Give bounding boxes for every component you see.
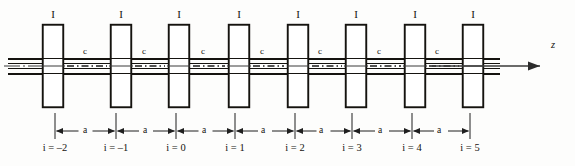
cell-index-label: i = 0: [166, 143, 185, 154]
dimension-arrowhead-left: [413, 128, 420, 134]
z-axis-label: z: [551, 40, 555, 51]
dimension-arrowhead-left: [236, 128, 243, 134]
cell-top-label-I: I: [296, 9, 300, 20]
gap-label-c: c: [435, 47, 439, 56]
periodic-cell-structure-figure: IIIIIIII ccccccc aaaaaaa i = –2i = –1i =…: [0, 0, 575, 166]
cell-top-label-I: I: [177, 9, 181, 20]
dimension-arrowhead-right: [168, 128, 175, 134]
gap-label-c: c: [83, 47, 87, 56]
dimension-arrowhead-right: [227, 128, 234, 134]
cell-top-label-I: I: [471, 9, 475, 20]
gap-label-c: c: [318, 47, 322, 56]
cell-index-label: i = 2: [285, 143, 304, 154]
cell-index-label: i = 3: [342, 143, 361, 154]
dimension-arrowhead-right: [108, 128, 115, 134]
z-axis-arrowhead: [528, 62, 540, 71]
dimension-arrowhead-left: [296, 128, 303, 134]
dimension-arrowhead-left: [353, 128, 360, 134]
cell-top-label-I: I: [354, 9, 358, 20]
dimension-arrowhead-left: [117, 128, 124, 134]
period-label-a: a: [143, 126, 147, 136]
cell-index-label: i = 5: [460, 143, 479, 154]
period-label-a: a: [83, 126, 87, 136]
dimension-arrowhead-right: [287, 128, 294, 134]
dimension-arrowhead-right: [462, 128, 469, 134]
period-label-a: a: [437, 126, 441, 136]
gap-label-c: c: [377, 47, 381, 56]
period-label-a: a: [378, 126, 382, 136]
period-label-a: a: [261, 126, 265, 136]
cell-index-label: i = 4: [402, 143, 421, 154]
dimension-arrowhead-left: [177, 128, 184, 134]
dimension-arrowhead-right: [404, 128, 411, 134]
gap-label-c: c: [142, 47, 146, 56]
cell-index-label: i = –2: [43, 143, 68, 154]
cell-index-label: i = 1: [225, 143, 244, 154]
dimension-arrowhead-right: [344, 128, 351, 134]
dimension-arrowhead-left: [56, 128, 63, 134]
cell-index-label: i = –1: [104, 143, 129, 154]
cell-top-label-I: I: [237, 9, 241, 20]
period-label-a: a: [319, 126, 323, 136]
cell-top-label-I: I: [413, 9, 417, 20]
gap-label-c: c: [201, 47, 205, 56]
period-label-a: a: [202, 126, 206, 136]
cell-top-label-I: I: [51, 9, 55, 20]
cell-top-label-I: I: [119, 9, 123, 20]
gap-label-c: c: [260, 47, 264, 56]
